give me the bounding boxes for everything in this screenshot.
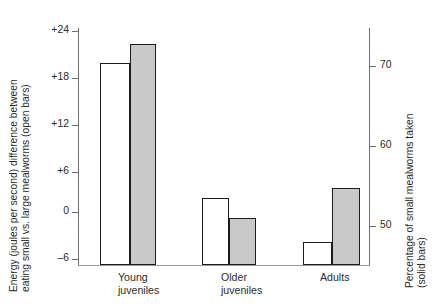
right-ticklabel-70: 70 [380,59,392,70]
category-label-adults: Adults [320,271,349,284]
left-ticklabel-12: +12 [51,118,69,129]
left-axis-title-line2: eating small vs. large mealworms (open b… [20,79,32,292]
category-label-line1: Older [221,271,262,284]
right-ticklabel-60: 60 [380,139,392,150]
right-tick-60 [369,146,376,147]
bar-open-young-juveniles [100,63,130,265]
left-tick-12 [72,125,79,126]
right-axis-title: Percentage of small mealworms taken (sol… [404,113,429,288]
bar-open-older-juveniles [202,198,229,265]
right-axis-title-line1: Percentage of small mealworms taken [404,113,416,288]
right-tick-70 [369,66,376,67]
left-axis-title: Energy (joules per second) difference be… [8,79,33,292]
left-ticklabel-18: +18 [51,71,69,82]
category-label-line1: Young [118,271,159,284]
left-tick-24 [72,31,79,32]
bar-solid-adults [332,188,360,265]
bar-solid-older-juveniles [229,218,256,265]
category-label-older-juveniles: Older juveniles [221,271,262,297]
left-tick-6 [72,172,79,173]
left-tick-minus6 [72,259,79,260]
left-ticklabel-6: +6 [57,165,69,176]
left-ticklabel-24: +24 [51,24,69,35]
chart-figure: Energy (joules per second) difference be… [0,0,438,306]
category-label-young-juveniles: Young juveniles [118,271,159,297]
bar-solid-young-juveniles [130,44,156,265]
plot-area: +24 +18 +12 +6 0 –6 70 60 50 [78,28,370,266]
category-label-line2: juveniles [221,284,262,297]
left-tick-18 [72,78,79,79]
category-label-line2: juveniles [118,284,159,297]
bar-open-adults [303,242,332,265]
left-ticklabel-0: 0 [63,205,69,216]
right-tick-50 [369,226,376,227]
left-axis-title-line1: Energy (joules per second) difference be… [8,79,20,292]
left-tick-0 [72,212,79,213]
right-axis-title-line2: (solid bars) [416,113,428,288]
category-label-line1: Adults [320,271,349,284]
right-ticklabel-50: 50 [380,219,392,230]
left-ticklabel-minus6: –6 [57,252,69,263]
